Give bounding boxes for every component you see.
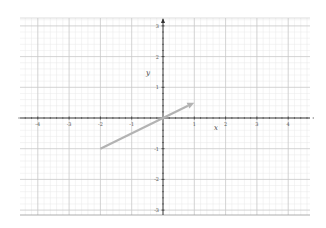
y-axis-arrowhead-icon bbox=[161, 18, 165, 23]
y-tick-label: -2 bbox=[154, 176, 159, 182]
x-tick-label: -4 bbox=[35, 121, 40, 127]
series bbox=[100, 103, 194, 149]
x-tick-label: 3 bbox=[255, 121, 258, 127]
x-tick-label: -3 bbox=[67, 121, 72, 127]
y-axis-label: y bbox=[145, 69, 151, 77]
y-tick-label: 1 bbox=[156, 84, 159, 90]
x-tick-label: -1 bbox=[129, 121, 134, 127]
x-tick-label: 4 bbox=[287, 121, 290, 127]
y-tick-label: -3 bbox=[154, 207, 159, 213]
x-tick-label: -2 bbox=[98, 121, 103, 127]
x-tick-label: 2 bbox=[224, 121, 227, 127]
y-tick-label: -1 bbox=[154, 146, 159, 152]
x-tick-label: 1 bbox=[193, 121, 196, 127]
y-tick-label: 2 bbox=[156, 54, 159, 60]
vector-plot: -4-3-2-11234321-1-2-3 x y bbox=[0, 0, 326, 228]
x-axis-label: x bbox=[214, 124, 218, 132]
y-tick-label: 3 bbox=[156, 23, 159, 29]
